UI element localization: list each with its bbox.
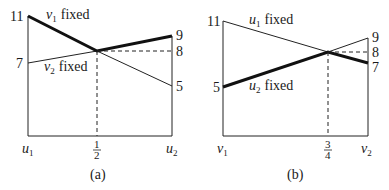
label-u2-fixed: u2fixed	[249, 78, 293, 95]
label-v2-fixed: v2fixed	[44, 59, 87, 76]
x-right-label: v2	[361, 141, 372, 158]
label-v1-fixed: v1fixed	[46, 7, 89, 24]
x-right-label: u2	[166, 141, 178, 158]
x-mid-den: 2	[94, 149, 100, 161]
diagram-canvas: 11 7 9 8 5 v1fixed v2fixed u1 u2 1 2 (a)…	[0, 0, 389, 190]
y-right-low: 7	[372, 60, 379, 75]
y-left-top: 11	[207, 14, 220, 29]
y-right-top: 9	[176, 28, 183, 43]
y-right-mid: 8	[372, 45, 379, 60]
x-left-label: v1	[217, 141, 228, 158]
x-left-label: u1	[22, 141, 34, 158]
panel-b: 11 5 9 8 7 u1fixed u2fixed v1 v2 3 4 (b)	[207, 12, 379, 183]
y-right-mid: 8	[176, 44, 183, 59]
caption-a: (a)	[90, 167, 106, 183]
y-left-low: 5	[213, 80, 220, 95]
y-right-top: 9	[372, 30, 379, 45]
y-left-top: 11	[10, 9, 23, 24]
y-right-low: 5	[176, 79, 183, 94]
bold-envelope	[223, 52, 368, 87]
line-v1-fixed-thin	[97, 51, 172, 86]
x-mid-den: 4	[325, 149, 331, 161]
y-left-low: 7	[16, 56, 23, 71]
caption-b: (b)	[287, 167, 304, 183]
line-u2-fixed-thin	[328, 38, 368, 52]
label-u1-fixed: u1fixed	[249, 12, 293, 29]
panel-a: 11 7 9 8 5 v1fixed v2fixed u1 u2 1 2 (a)	[10, 7, 183, 183]
